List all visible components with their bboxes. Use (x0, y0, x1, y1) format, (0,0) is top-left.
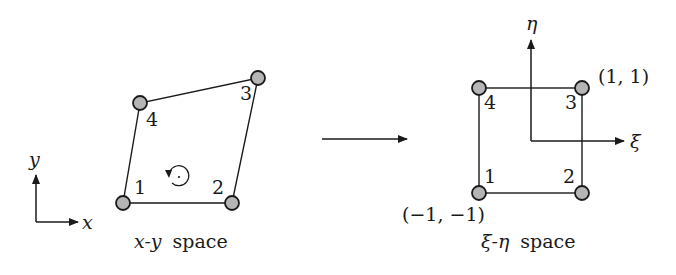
ref-node-4-label: 4 (484, 91, 496, 113)
xy-caption-var: x-y (134, 230, 162, 252)
xy-space-panel: y x 1 2 3 4 x-y space (28, 71, 265, 252)
xi-eta-space-panel: η ξ 1 2 3 4 (1, 1) (−1, −1) ξ-η space (402, 12, 649, 252)
node-1-marker-icon (116, 196, 130, 210)
node-4-marker-icon (133, 96, 147, 110)
y-axis-label: y (28, 148, 40, 170)
ref-node-2-marker-icon (575, 186, 589, 200)
ref-node-1-marker-icon (472, 186, 486, 200)
eta-axis-label: η (526, 12, 538, 34)
ref-node-2-label: 2 (563, 165, 575, 187)
xy-axes: y x (28, 148, 93, 233)
xi-eta-space-caption: ξ-η space (481, 230, 575, 252)
node-2-marker-icon (225, 196, 239, 210)
xi-eta-caption-var: ξ-η (481, 230, 510, 252)
node-2-label: 2 (212, 176, 224, 198)
xi-axis-label: ξ (630, 130, 642, 152)
corner-label-bottom-left: (−1, −1) (402, 203, 485, 225)
corner-label-top-right: (1, 1) (598, 65, 649, 87)
xi-eta-caption-word: space (520, 230, 575, 252)
ccw-orientation-icon (165, 166, 189, 186)
node-3-label: 3 (240, 82, 252, 104)
ref-node-1-label: 1 (484, 165, 496, 187)
xy-caption-word: space (173, 230, 228, 252)
xy-space-caption: x-y space (134, 230, 228, 252)
node-4-label: 4 (146, 108, 158, 130)
isoparametric-diagram: y x 1 2 3 4 x-y space (0, 0, 676, 275)
node-3-marker-icon (251, 71, 265, 85)
ref-node-3-marker-icon (575, 81, 589, 95)
x-axis-label: x (82, 211, 93, 233)
ref-node-3-label: 3 (565, 91, 577, 113)
node-1-label: 1 (134, 176, 146, 198)
